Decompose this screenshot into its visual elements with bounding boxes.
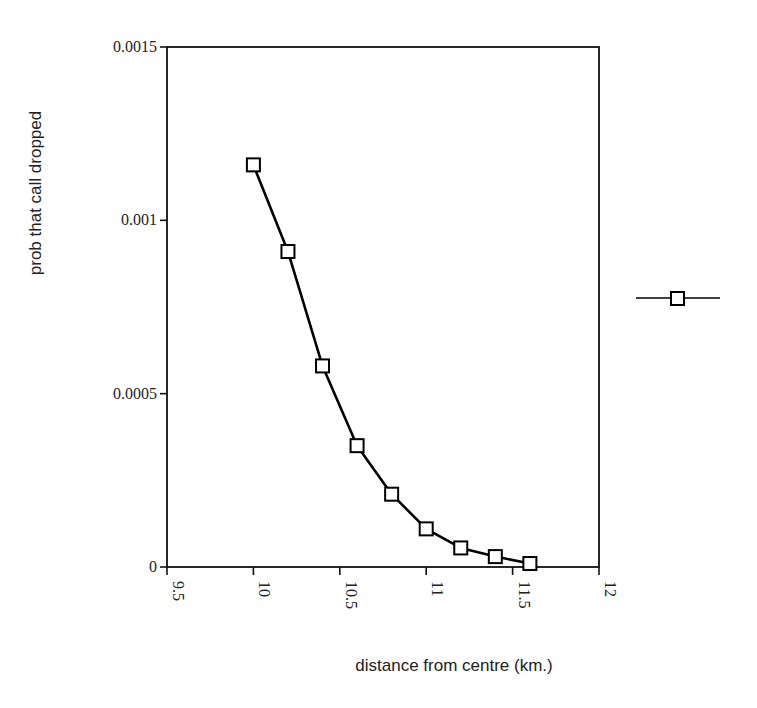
data-series bbox=[247, 158, 536, 570]
x-axis: 9.51010.51111.512 bbox=[167, 567, 619, 609]
x-tick-label: 12 bbox=[602, 581, 619, 597]
y-tick-label: 0.0005 bbox=[113, 385, 157, 402]
y-tick-label: 0.0015 bbox=[113, 38, 157, 55]
square-marker-icon bbox=[247, 158, 260, 171]
y-axis: 00.00050.0010.0015 bbox=[113, 38, 167, 575]
x-tick-label: 11 bbox=[429, 581, 446, 596]
x-tick-label: 9.5 bbox=[170, 581, 187, 601]
x-axis-label: distance from centre (km.) bbox=[355, 656, 552, 675]
square-marker-icon bbox=[523, 557, 536, 570]
square-marker-icon bbox=[454, 541, 467, 554]
legend-square-marker-icon bbox=[671, 292, 684, 305]
square-marker-icon bbox=[316, 359, 329, 372]
x-tick-label: 10 bbox=[256, 581, 273, 597]
x-tick-label: 11.5 bbox=[516, 581, 533, 608]
line-chart: 00.00050.0010.0015 9.51010.51111.512 pro… bbox=[0, 0, 757, 708]
square-marker-icon bbox=[420, 522, 433, 535]
y-tick-label: 0 bbox=[149, 558, 157, 575]
square-marker-icon bbox=[281, 245, 294, 258]
legend bbox=[636, 292, 720, 305]
plot-frame bbox=[167, 47, 599, 567]
x-tick-label: 10.5 bbox=[343, 581, 360, 609]
square-marker-icon bbox=[351, 439, 364, 452]
square-marker-icon bbox=[489, 550, 502, 563]
y-axis-label: prob that call dropped bbox=[26, 111, 45, 275]
y-tick-label: 0.001 bbox=[121, 211, 157, 228]
square-marker-icon bbox=[385, 488, 398, 501]
